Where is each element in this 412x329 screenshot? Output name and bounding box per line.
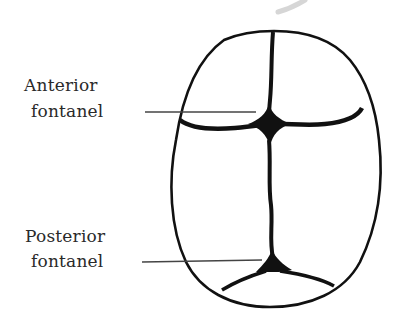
skull-drawing (0, 0, 412, 329)
anterior-label-line2: fontanel (31, 103, 104, 120)
anterior-fontanel (248, 104, 290, 146)
anterior-label-line1: Anterior (24, 77, 98, 94)
skull-diagram: Anterior fontanel Posterior fontanel (0, 0, 412, 329)
watermark-arc (278, 0, 305, 12)
posterior-leader-line (142, 260, 262, 262)
lambdoid-suture (222, 271, 334, 290)
posterior-label-line1: Posterior (25, 228, 105, 245)
sagittal-suture (269, 140, 273, 258)
posterior-label-line2: fontanel (31, 253, 104, 270)
